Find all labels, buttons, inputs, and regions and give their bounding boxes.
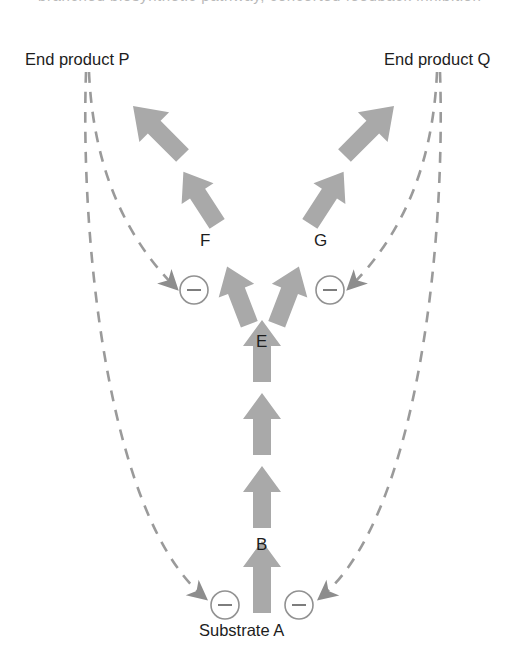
inhibition-symbol-f-branch bbox=[180, 276, 208, 304]
reaction-arrow-g-to-q-step2 bbox=[330, 91, 409, 170]
reaction-arrow-e-to-g bbox=[259, 260, 317, 331]
label-end-product-q: End product Q bbox=[384, 51, 490, 68]
pathway-diagram: branched biosynthetic pathway, concerted… bbox=[0, 0, 523, 661]
label-end-product-p: End product P bbox=[25, 51, 130, 68]
inhibition-symbol-substrate-right bbox=[285, 591, 313, 619]
pathway-graphics bbox=[0, 0, 523, 661]
reaction-arrow-f-to-p-step2 bbox=[118, 91, 197, 170]
feedback-path-q-to-first-step bbox=[320, 72, 441, 598]
reaction-arrow-e-to-f bbox=[209, 260, 267, 331]
reaction-arrow-b-to-e-step1 bbox=[243, 466, 281, 528]
reaction-arrow-g-to-q-step1 bbox=[294, 161, 360, 234]
label-intermediate-e: E bbox=[256, 333, 267, 350]
label-substrate-a: Substrate A bbox=[199, 622, 284, 639]
reaction-arrow-f-to-p-step1 bbox=[167, 161, 233, 234]
label-intermediate-f: F bbox=[200, 232, 210, 249]
feedback-path-q-to-g-branch bbox=[349, 72, 437, 288]
inhibition-symbol-g-branch bbox=[316, 276, 344, 304]
reaction-arrow-b-to-e-step2 bbox=[243, 393, 281, 455]
label-intermediate-b: B bbox=[256, 536, 267, 553]
label-intermediate-g: G bbox=[314, 232, 327, 249]
feedback-path-p-to-f-branch bbox=[89, 72, 176, 288]
reaction-arrow-b-to-e-step3 bbox=[243, 320, 281, 382]
inhibition-symbol-substrate-left bbox=[211, 591, 239, 619]
